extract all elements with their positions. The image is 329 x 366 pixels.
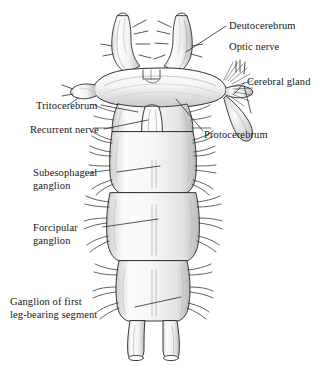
protocerebrum-mass	[93, 68, 226, 108]
right-antennal-nerve	[154, 13, 203, 73]
label-tritocerebrum: Tritocerebrum	[36, 100, 98, 113]
label-forcipular-ganglion: Forcipular ganglion	[33, 222, 125, 247]
label-first-leg-bearing-ganglion: Ganglion of first leg-bearing segment	[10, 296, 150, 321]
left-antennal-nerve	[101, 13, 151, 73]
label-recurrent-nerve: Recurrent nerve	[30, 124, 99, 137]
label-first-leg-line2: leg-bearing segment	[10, 309, 97, 320]
label-optic-nerve: Optic nerve	[229, 41, 279, 54]
label-subesophageal-line2: ganglion	[33, 180, 71, 191]
label-subesophageal-ganglion: Subesophageal ganglion	[33, 167, 125, 192]
label-cerebral-gland: Cerebral gland	[247, 76, 311, 89]
label-first-leg-line1: Ganglion of first	[10, 296, 82, 307]
label-protocerebrum: Protocerebrum	[204, 129, 268, 142]
ventral-connectives	[128, 321, 180, 361]
label-deutocerebrum: Deutocerebrum	[229, 20, 296, 33]
label-forcipular-line2: ganglion	[33, 235, 71, 246]
label-subesophageal-line1: Subesophageal	[33, 167, 97, 178]
label-forcipular-line1: Forcipular	[33, 222, 78, 233]
